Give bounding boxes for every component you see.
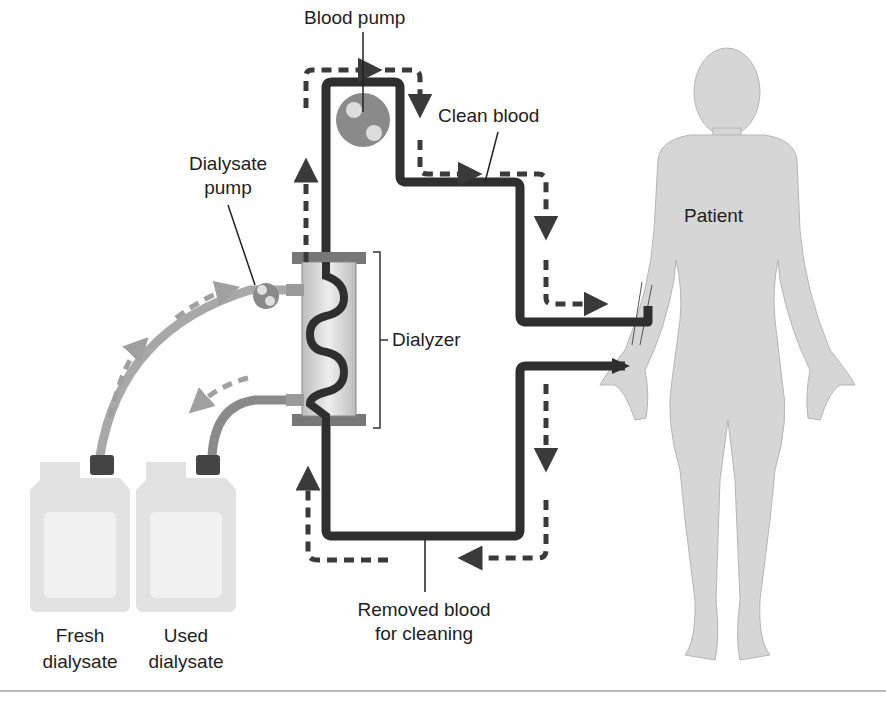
clean-blood-label: Clean blood — [438, 104, 539, 128]
blood-pump-label: Blood pump — [304, 6, 405, 30]
fresh-dialysate-label-line1: Fresh — [30, 624, 130, 648]
dialyzer-label: Dialyzer — [392, 328, 461, 352]
removed-blood-label-line1: Removed blood — [344, 598, 504, 622]
dialysate-pump-label-line1: Dialysate — [178, 152, 278, 176]
fresh-dialysate-container — [30, 455, 130, 612]
used-dialysate-label-line2: dialysate — [136, 650, 236, 674]
removed-blood-label-line2: for cleaning — [344, 622, 504, 646]
used-dialysate-container — [136, 455, 236, 612]
fresh-dialysate-label-line2: dialysate — [30, 650, 130, 674]
dialysate-flow-arrows — [110, 290, 248, 418]
clean-blood-leader — [485, 132, 498, 182]
patient-body — [600, 48, 855, 660]
dialyzer — [292, 252, 388, 430]
blood-tube-removed — [326, 366, 625, 536]
used-dialysate-label-line1: Used — [136, 624, 236, 648]
used-dialysate-tube — [212, 400, 302, 456]
dialysate-pump-label-line2: pump — [178, 176, 278, 200]
patient-label: Patient — [684, 204, 743, 228]
bottom-divider — [0, 690, 886, 692]
fresh-dialysate-tube — [100, 290, 302, 456]
